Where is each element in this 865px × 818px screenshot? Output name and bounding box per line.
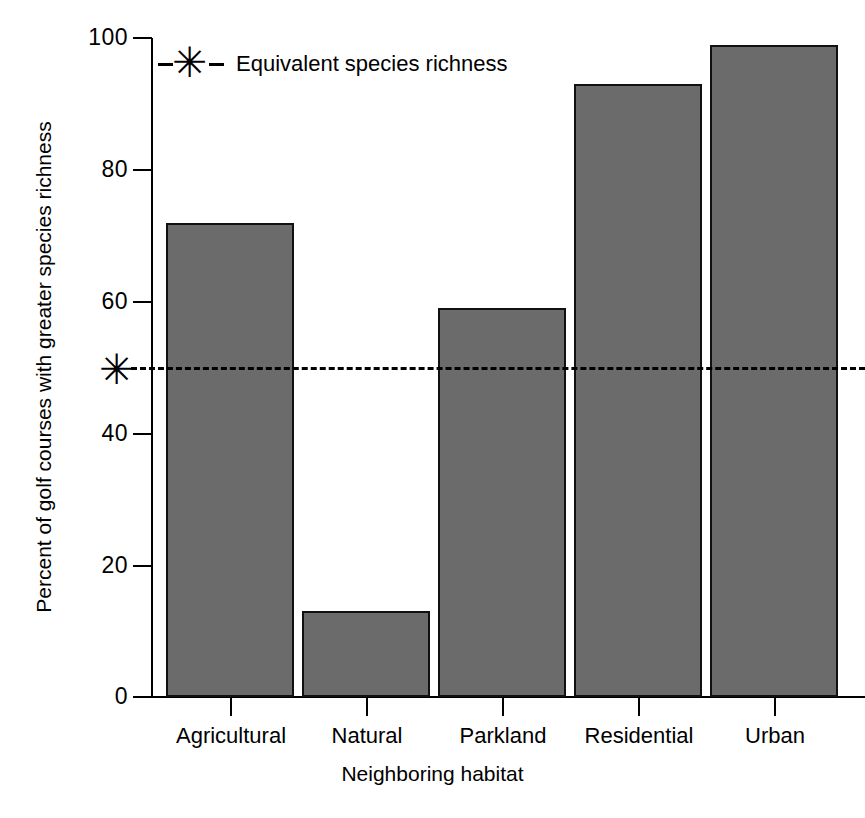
bar-residential[interactable] xyxy=(574,84,702,697)
x-axis-tick-agricultural xyxy=(230,697,232,716)
legend-dash-right-icon xyxy=(209,63,224,66)
y-axis-tick-label-20: 20 xyxy=(58,554,128,577)
y-axis-tick-label-80-text: 80 xyxy=(68,158,128,181)
asterisk-icon: ✳ xyxy=(99,349,134,391)
x-axis-label-residential: Residential xyxy=(585,723,694,749)
legend-asterisk-icon: ✳ xyxy=(172,42,207,84)
y-axis-tick-label-80: 80 xyxy=(58,158,128,181)
y-axis-tick-label-40: 40 xyxy=(58,422,128,445)
x-axis-tick-parkland xyxy=(502,697,504,716)
y-axis-tick-20 xyxy=(133,565,152,567)
legend-label-equivalent-species-richness: Equivalent species richness xyxy=(236,53,507,75)
y-axis-tick-label-0-text: 0 xyxy=(68,685,128,708)
bar-natural[interactable] xyxy=(302,611,430,697)
y-axis-tick-label-20-text: 20 xyxy=(68,554,128,577)
x-axis-label-natural: Natural xyxy=(332,723,403,749)
y-axis-tick-label-100: 100 xyxy=(58,26,128,49)
x-axis-tick-natural xyxy=(366,697,368,716)
y-axis-tick-80 xyxy=(133,169,152,171)
y-axis-tick-40 xyxy=(133,433,152,435)
x-axis-label-agricultural: Agricultural xyxy=(176,723,286,749)
x-axis-tick-urban xyxy=(774,697,776,716)
y-axis-tick-0 xyxy=(133,696,152,698)
y-axis-tick-100 xyxy=(133,37,152,39)
x-axis-title: Neighboring habitat xyxy=(0,762,865,786)
x-axis-label-parkland: Parkland xyxy=(460,723,547,749)
bar-urban[interactable] xyxy=(710,45,838,697)
y-axis-title: Percent of golf courses with greater spe… xyxy=(32,37,56,697)
y-axis-tick-label-0: 0 xyxy=(58,685,128,708)
chart-legend: ✳ Equivalent species richness xyxy=(158,44,507,84)
legend-dash-left-icon xyxy=(158,63,173,66)
legend-marker-equivalent-species-richness: ✳ xyxy=(158,44,224,84)
y-axis-tick-label-60-text: 60 xyxy=(68,290,128,313)
y-axis-tick-60 xyxy=(133,301,152,303)
x-axis-label-urban: Urban xyxy=(745,723,805,749)
y-axis-tick-label-40-text: 40 xyxy=(68,422,128,445)
equivalence-reference-line xyxy=(131,367,865,370)
bar-chart-figure: Percent of golf courses with greater spe… xyxy=(0,0,865,818)
y-axis-tick-label-60: 60 xyxy=(58,290,128,313)
y-axis-tick-label-100-text: 100 xyxy=(68,26,128,49)
bar-agricultural[interactable] xyxy=(166,223,294,697)
x-axis-tick-residential xyxy=(638,697,640,716)
